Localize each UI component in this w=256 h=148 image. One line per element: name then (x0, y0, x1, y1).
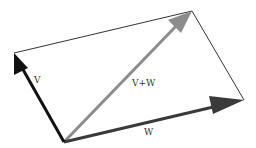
vector-v-plus-w (64, 11, 192, 142)
label-w: W (144, 127, 154, 137)
arrowhead-w-icon (209, 96, 244, 114)
label-v: V (33, 75, 41, 85)
edge-v-to-sum (14, 11, 192, 53)
vector-v (14, 53, 64, 142)
label-v-plus-w: V+W (131, 78, 156, 88)
vector-parallelogram-diagram: V V+W W (0, 0, 256, 148)
edge-sum-to-w (192, 11, 244, 100)
vector-w (64, 96, 244, 142)
